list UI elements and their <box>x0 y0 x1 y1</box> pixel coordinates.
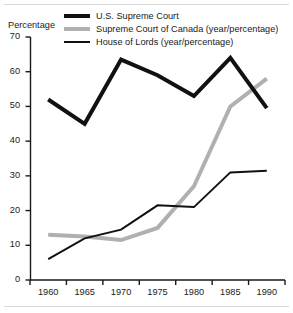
series-line-supreme-court-of-canada-year-percentage <box>48 79 267 240</box>
series-line-u-s-supreme-court <box>48 58 267 124</box>
chart-figure: Percentage U.S. Supreme Court Supreme Co… <box>0 0 293 313</box>
line-thick-black-swatch <box>64 14 90 18</box>
plot-area: 0102030405060701960196519701975198019851… <box>30 37 285 280</box>
y-tick-label: 40 <box>2 135 20 145</box>
x-tick-label: 1980 <box>177 287 211 297</box>
chart-svg <box>30 37 285 280</box>
x-tick-label: 1975 <box>141 287 175 297</box>
y-tick-label: 70 <box>2 31 20 41</box>
y-tick-label: 0 <box>2 274 20 284</box>
series-layer <box>48 58 267 259</box>
y-tick-label: 60 <box>2 66 20 76</box>
x-tick-label: 1965 <box>68 287 102 297</box>
bottom-divider-rule <box>4 306 289 307</box>
y-tick-label: 20 <box>2 205 20 215</box>
x-tick-label: 1985 <box>213 287 247 297</box>
top-divider-rule <box>4 4 289 5</box>
series-line-house-of-lords-year-percentage <box>48 171 267 260</box>
y-tick-label: 50 <box>2 100 20 110</box>
line-gray-swatch <box>64 27 90 31</box>
x-tick-label: 1970 <box>104 287 138 297</box>
y-axis-title: Percentage <box>8 20 55 30</box>
legend-item-supreme-court-of-canada: Supreme Court of Canada (year/percentage… <box>64 23 290 35</box>
y-tick-label: 30 <box>2 170 20 180</box>
x-tick-label: 1960 <box>31 287 65 297</box>
legend-label: Supreme Court of Canada (year/percentage… <box>96 24 278 35</box>
legend-label: U.S. Supreme Court <box>96 11 179 22</box>
x-tick-label: 1990 <box>250 287 284 297</box>
y-tick-label: 10 <box>2 239 20 249</box>
legend-item-us-supreme-court: U.S. Supreme Court <box>64 10 290 22</box>
